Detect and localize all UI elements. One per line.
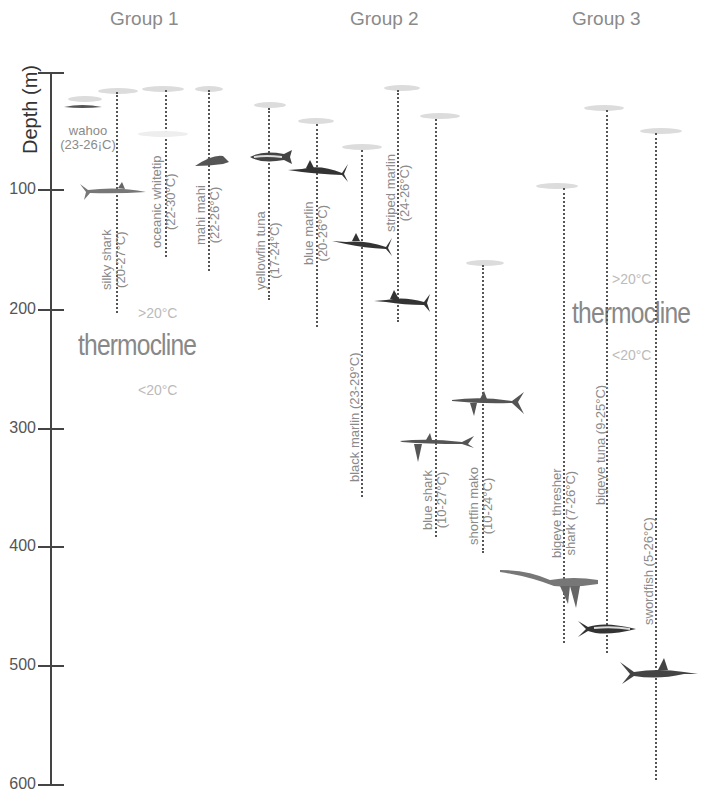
yellowfin-tuna-temp: (17-24°C): [268, 211, 282, 290]
bigeye-tuna-name-temp: bigeye tuna (9-25°C): [594, 385, 608, 505]
bigeye-thresher-name-line1: bigeye thresher: [550, 468, 564, 558]
bigeye-thresher-name-line2: shark (7-26°C): [564, 468, 578, 558]
axis-tick-400: [38, 546, 64, 548]
bigeye-thresher-label: bigeye thresher shark (7-26°C): [550, 468, 578, 558]
bigeye-tuna-range-line: [606, 110, 608, 653]
axis-tick-0: [38, 72, 64, 74]
group-2-title: Group 2: [350, 8, 419, 30]
axis-label-300: 300: [2, 419, 36, 437]
mahi-mahi-fish-icon: [193, 152, 231, 170]
blue-shark-fish-icon: [398, 432, 478, 466]
shortfin-mako-name: shortfin mako: [467, 467, 481, 545]
axis-label-100: 100: [2, 180, 36, 198]
axis-tick-500: [38, 665, 64, 667]
blue-marlin-name: blue marlin: [302, 201, 316, 265]
striped-marlin-ghost-icon: [384, 85, 420, 91]
striped-marlin-name: striped marlin: [384, 154, 398, 232]
bigeye-thresher-ghost-icon: [536, 183, 578, 189]
blue-shark-name: blue shark: [421, 470, 435, 530]
shortfin-mako-temp: (10-24°C): [481, 467, 495, 545]
silky-shark-fish-icon: [78, 180, 148, 204]
wahoo-label: wahoo (23-26¡C): [58, 124, 118, 152]
swordfish-fish-icon: [618, 656, 700, 690]
swordfish-name-temp: swordfish (5-26°C): [642, 517, 656, 625]
thermocline-label-left: thermocline: [78, 328, 196, 362]
thermocline-below-label-left: <20°C: [138, 382, 177, 398]
mahi-mahi-label: mahi mahi (22-26°C): [194, 185, 222, 245]
silky-shark-label: silky shark (20-27°C): [100, 229, 128, 290]
blue-shark-temp: (10-27°C): [435, 470, 449, 530]
axis-label-400: 400: [2, 537, 36, 555]
oceanic-whitetip-label: oceanic whitetip (22-30°C): [150, 156, 178, 249]
striped-marlin-label: striped marlin (24-26°C): [384, 154, 412, 232]
thermocline-below-label-right: <20°C: [612, 347, 651, 363]
axis-label-200: 200: [2, 300, 36, 318]
thermocline-above-label-left: >20°C: [138, 305, 177, 321]
shortfin-mako-fish-icon: [450, 390, 528, 420]
black-marlin-fish-icon: [330, 232, 394, 258]
mahi-mahi-temp: (22-26°C): [208, 185, 222, 245]
axis-tick-200: [38, 309, 64, 311]
yellowfin-tuna-ghost-icon: [254, 102, 286, 108]
blue-marlin-temp: (20-26°C): [316, 201, 330, 265]
blue-marlin-fish-icon: [286, 158, 350, 184]
axis-tick-300: [38, 428, 64, 430]
oceanic-whitetip-temp: (22-30°C): [164, 156, 178, 249]
swordfish-ghost-icon: [640, 128, 682, 134]
black-marlin-name-temp: black marlin (23-29°C): [348, 353, 362, 482]
silky-shark-ghost-icon: [98, 88, 138, 94]
wahoo-temp: (23-26¡C): [58, 138, 118, 152]
wahoo-name: wahoo: [58, 124, 118, 138]
blue-marlin-label: blue marlin (20-26°C): [302, 201, 330, 265]
axis-tick-600: [38, 784, 64, 786]
bigeye-thresher-fish-icon: [498, 566, 604, 612]
oceanic-whitetip-name: oceanic whitetip: [150, 156, 164, 249]
thermocline-label-right: thermocline: [572, 296, 690, 330]
silky-shark-name: silky shark: [100, 229, 114, 290]
swordfish-label: swordfish (5-26°C): [642, 517, 656, 625]
depth-axis-title: Depth (m): [19, 55, 42, 165]
blue-shark-label: blue shark (10-27°C): [421, 470, 449, 530]
oceanic-whitetip-faint-fish-icon: [138, 131, 188, 137]
blue-shark-ghost-icon: [420, 113, 460, 119]
striped-marlin-temp: (24-26°C): [398, 154, 412, 232]
axis-label-500: 500: [2, 656, 36, 674]
yellowfin-tuna-label: yellowfin tuna (17-24°C): [254, 211, 282, 290]
shortfin-mako-label: shortfin mako (10-24°C): [467, 467, 495, 545]
axis-label-600: 600: [2, 775, 36, 793]
silky-shark-temp: (20-27°C): [114, 229, 128, 290]
yellowfin-tuna-name: yellowfin tuna: [254, 211, 268, 290]
oceanic-whitetip-ghost-icon: [142, 86, 184, 92]
mahi-mahi-name: mahi mahi: [194, 185, 208, 245]
axis-tick-100: [38, 189, 64, 191]
striped-marlin-fish-icon: [372, 288, 432, 314]
group-1-title: Group 1: [110, 8, 179, 30]
shortfin-mako-ghost-icon: [466, 260, 504, 266]
group-3-title: Group 3: [572, 8, 641, 30]
bigeye-tuna-fish-icon: [576, 617, 640, 641]
bigeye-tuna-label: bigeye tuna (9-25°C): [594, 385, 608, 505]
bigeye-tuna-ghost-icon: [584, 105, 624, 111]
black-marlin-label: black marlin (23-29°C): [348, 353, 362, 482]
thermocline-above-label-right: >20°C: [612, 271, 651, 287]
wahoo-fish-icon: [62, 102, 104, 112]
